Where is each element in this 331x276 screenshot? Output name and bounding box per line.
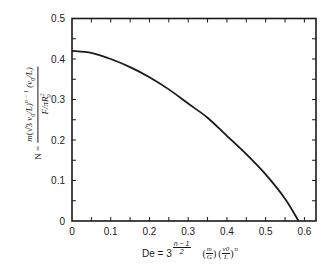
x-tick-label: 0 xyxy=(69,226,75,237)
x-tick-label: 0.6 xyxy=(297,226,311,237)
y-tick-label: 0 xyxy=(59,216,65,227)
x-tick-label: 0.3 xyxy=(181,226,195,237)
y-label-lhs: N = xyxy=(33,146,43,160)
x-tick-label: 0.2 xyxy=(143,226,157,237)
x-label-factor-v0-over-l: (v0L)n xyxy=(218,246,238,262)
x-label-lhs: De = 3 xyxy=(142,248,172,259)
x-label-exponent: n − 1 2 xyxy=(173,240,191,256)
data-curve xyxy=(72,51,299,221)
y-axis-label: N = m(√3 v0/L)n − 1 (v0/L) F/πR20 xyxy=(18,48,58,178)
y-label-denominator: F/πR20 xyxy=(39,95,53,115)
y-label-fraction: m(√3 v0/L)n − 1 (v0/L) F/πR20 xyxy=(23,66,52,143)
x-tick-label: 0.1 xyxy=(104,226,118,237)
x-label-factor-m-over-g: (mG) xyxy=(203,246,217,262)
x-axis-label: De = 3 n − 1 2 (mG) (v0L)n xyxy=(142,246,238,262)
y-label-numerator: m(√3 v0/L)n − 1 (v0/L) xyxy=(23,66,38,143)
x-tick-label: 0.4 xyxy=(220,226,234,237)
y-tick-label: 0.5 xyxy=(51,13,65,24)
x-tick-label: 0.5 xyxy=(259,226,273,237)
